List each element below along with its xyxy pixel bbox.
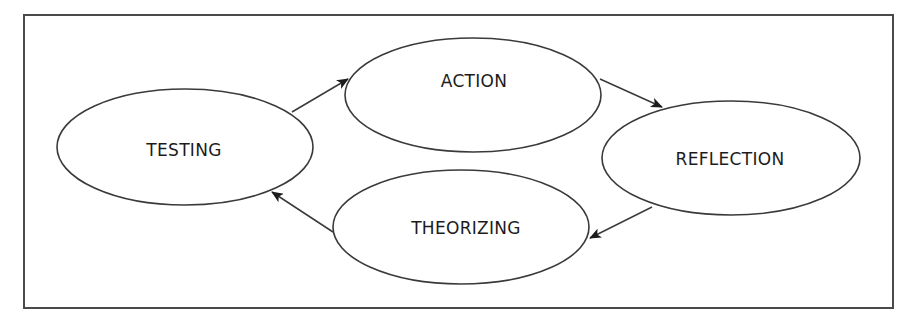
node-theorizing: THEORIZING xyxy=(333,170,589,284)
nodes-group: ACTIONREFLECTIONTHEORIZINGTESTING xyxy=(57,38,860,284)
node-label: ACTION xyxy=(441,71,508,91)
node-label: THEORIZING xyxy=(410,218,521,238)
learning-cycle-diagram: ACTIONREFLECTIONTHEORIZINGTESTING xyxy=(0,0,917,318)
node-testing: TESTING xyxy=(57,89,313,205)
arrow-action-to-reflection xyxy=(600,79,662,107)
node-label: TESTING xyxy=(145,140,221,160)
arrow-theorizing-to-testing xyxy=(272,192,333,232)
node-label: REFLECTION xyxy=(676,149,785,169)
arrow-testing-to-action xyxy=(292,79,348,112)
node-ellipse xyxy=(345,38,601,152)
node-reflection: REFLECTION xyxy=(602,101,860,215)
arrow-reflection-to-theorizing xyxy=(590,207,652,238)
node-action: ACTION xyxy=(345,38,601,152)
